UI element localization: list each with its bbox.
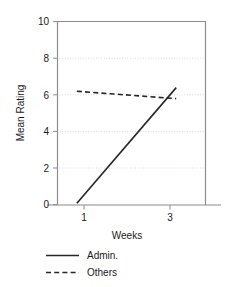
y-tick-label-2: 2: [43, 163, 49, 174]
y-tick-label-6: 6: [43, 90, 49, 101]
y-tick-label-0: 0: [43, 199, 49, 210]
x-tick-label-1: 1: [81, 212, 87, 223]
chart-background: [0, 0, 239, 287]
x-axis-title: Weeks: [112, 230, 142, 241]
chart-figure: 10 8 6 4 2 0 1 3 Weeks Mean Rating Admin…: [0, 0, 239, 287]
legend-label-admin: Admin.: [87, 250, 118, 261]
y-axis-title: Mean Rating: [15, 85, 26, 142]
line-chart: 10 8 6 4 2 0 1 3 Weeks Mean Rating Admin…: [0, 0, 239, 287]
y-tick-label-8: 8: [43, 53, 49, 64]
y-tick-label-4: 4: [43, 126, 49, 137]
y-tick-label-10: 10: [38, 16, 50, 27]
legend-label-others: Others: [87, 267, 117, 278]
x-tick-label-3: 3: [167, 212, 173, 223]
